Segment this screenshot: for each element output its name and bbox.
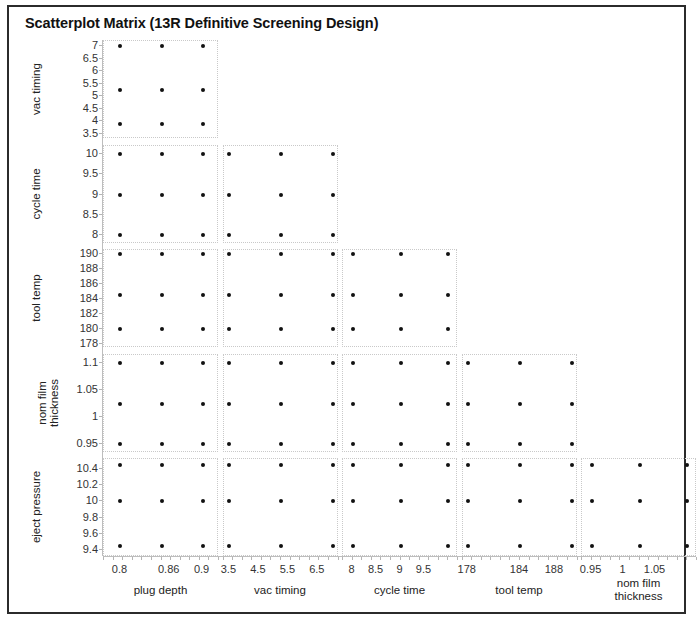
x-tick-mark [548, 557, 549, 560]
scatter-cell-tool-temp-vs-cycle-time[interactable] [342, 249, 457, 347]
data-point [118, 193, 122, 197]
data-point [118, 252, 122, 256]
scatter-cell-eject-pressure-vs-nom-film-thickness[interactable] [581, 458, 696, 556]
data-point [446, 293, 450, 297]
data-point [279, 402, 283, 406]
x-tick-mark [471, 557, 472, 560]
x-tick-label: 0.86 [158, 563, 179, 575]
x-tick-mark [361, 557, 362, 560]
data-point [399, 463, 403, 467]
x-tick-mark [428, 557, 429, 560]
data-point [570, 544, 574, 548]
data-point [118, 293, 122, 297]
data-point [227, 252, 231, 256]
data-point [201, 44, 205, 48]
data-point [227, 361, 231, 365]
data-point [331, 463, 335, 467]
data-point [466, 442, 470, 446]
x-tick-mark [390, 557, 391, 560]
y-tick-label: 4.5 [58, 102, 98, 114]
scatter-cell-eject-pressure-vs-plug-depth[interactable] [103, 458, 218, 556]
data-point [160, 361, 164, 365]
x-tick-mark [342, 557, 343, 560]
data-point [118, 442, 122, 446]
scatter-cell-eject-pressure-vs-cycle-time[interactable] [342, 458, 457, 556]
data-point [118, 122, 122, 126]
y-tick-label: 188 [58, 262, 98, 274]
data-point [279, 327, 283, 331]
data-point [446, 252, 450, 256]
x-tick-mark [141, 557, 142, 560]
data-point [227, 544, 231, 548]
data-point [399, 442, 403, 446]
data-point [279, 499, 283, 503]
scatter-cell-nom-film-thickness-vs-tool-temp[interactable] [462, 354, 577, 452]
data-point [201, 122, 205, 126]
scatter-cell-nom-film-thickness-vs-cycle-time[interactable] [342, 354, 457, 452]
x-tick-mark [400, 557, 401, 560]
data-point [351, 499, 355, 503]
column-axis-title-cycle-time: cycle time [374, 584, 425, 597]
data-point [466, 463, 470, 467]
data-point [118, 499, 122, 503]
x-tick-mark [352, 557, 353, 560]
data-point [466, 499, 470, 503]
x-tick-mark [189, 557, 190, 560]
scatter-cell-tool-temp-vs-plug-depth[interactable] [103, 249, 218, 347]
x-tick-mark [309, 557, 310, 560]
data-point [638, 499, 642, 503]
data-point [201, 88, 205, 92]
column-axis-title-tool-temp: tool temp [495, 584, 542, 597]
data-point [331, 544, 335, 548]
x-tick-label: 9.5 [416, 563, 431, 575]
y-tick-label: 4 [58, 114, 98, 126]
x-tick-mark [686, 557, 687, 560]
x-tick-label: 3.5 [221, 563, 236, 575]
column-axis-title-vac-timing: vac timing [254, 584, 306, 597]
scatter-cell-cycle-time-vs-vac-timing[interactable] [223, 145, 338, 243]
scatter-cell-eject-pressure-vs-vac-timing[interactable] [223, 458, 338, 556]
x-tick-mark [509, 557, 510, 560]
x-axis-line [103, 556, 696, 557]
data-point [160, 463, 164, 467]
x-tick-mark [490, 557, 491, 560]
data-point [331, 402, 335, 406]
x-tick-mark [457, 557, 458, 560]
y-tick-label: 6 [58, 64, 98, 76]
x-tick-mark [223, 557, 224, 560]
data-point [160, 327, 164, 331]
scatter-cell-tool-temp-vs-vac-timing[interactable] [223, 249, 338, 347]
data-point [331, 442, 335, 446]
data-point [570, 361, 574, 365]
x-tick-mark [280, 557, 281, 560]
x-tick-label: 6.5 [309, 563, 324, 575]
x-tick-mark [500, 557, 501, 560]
y-tick-label: 10.2 [58, 478, 98, 490]
y-tick-label: 180 [58, 322, 98, 334]
data-point [446, 544, 450, 548]
data-point [279, 252, 283, 256]
y-tick-label: 178 [58, 337, 98, 349]
data-point [201, 499, 205, 503]
x-tick-mark [199, 557, 200, 560]
data-point [201, 402, 205, 406]
scatter-cell-vac-timing-vs-plug-depth[interactable] [103, 40, 218, 138]
data-point [399, 293, 403, 297]
data-point [685, 499, 689, 503]
x-tick-label: 188 [545, 563, 563, 575]
x-tick-mark [677, 557, 678, 560]
x-tick-mark [290, 557, 291, 560]
scatter-cell-eject-pressure-vs-tool-temp[interactable] [462, 458, 577, 556]
data-point [399, 252, 403, 256]
data-point [279, 233, 283, 237]
data-point [227, 463, 231, 467]
scatter-cell-nom-film-thickness-vs-vac-timing[interactable] [223, 354, 338, 452]
data-point [201, 293, 205, 297]
row-axis-title-eject-pressure: eject pressure [30, 471, 42, 543]
data-point [227, 499, 231, 503]
y-tick-label: 0.95 [58, 437, 98, 449]
data-point [118, 327, 122, 331]
scatter-cell-nom-film-thickness-vs-plug-depth[interactable] [103, 354, 218, 452]
scatter-cell-cycle-time-vs-plug-depth[interactable] [103, 145, 218, 243]
data-point [227, 193, 231, 197]
